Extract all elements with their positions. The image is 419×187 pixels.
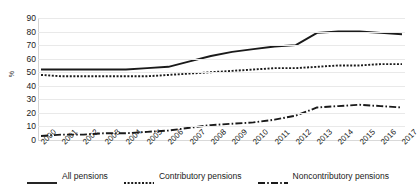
legend-key-icon [258,173,288,181]
gridline [38,45,405,46]
chart-legend: All pensionsContributory pensionsNoncont… [0,166,416,187]
y-tick-label: 80 [14,28,36,37]
gridline [38,99,405,100]
y-axis-tick-labels: 9080706050403020100 [12,0,36,187]
gridline [38,86,405,87]
plot-area [38,18,405,140]
y-tick-label: 30 [14,95,36,104]
y-tick-label: 70 [14,41,36,50]
y-tick-label: 10 [14,122,36,131]
legend-item[interactable]: All pensions [27,172,108,181]
legend-item[interactable]: Noncontributory pensions [258,172,389,181]
y-tick-label: 40 [14,82,36,91]
y-tick-label: 20 [14,109,36,118]
gridline [38,72,405,73]
gridline [38,59,405,60]
y-tick-label: 50 [14,68,36,77]
legend-label: Noncontributory pensions [293,172,389,181]
gridline [38,18,405,19]
legend-label: All pensions [62,172,108,181]
gridline [38,113,405,114]
y-tick-label: 60 [14,55,36,64]
gridline [38,32,405,33]
x-axis-tick-labels: 2000200120022003200420052006200720082009… [38,140,405,168]
series-lines [38,18,405,140]
legend-item[interactable]: Contributory pensions [124,172,242,181]
legend-key-icon [27,173,57,181]
y-tick-label: 0 [14,136,36,145]
legend-label: Contributory pensions [159,172,242,181]
series-line [41,32,402,70]
y-tick-label: 90 [14,14,36,23]
legend-key-icon [124,173,154,181]
